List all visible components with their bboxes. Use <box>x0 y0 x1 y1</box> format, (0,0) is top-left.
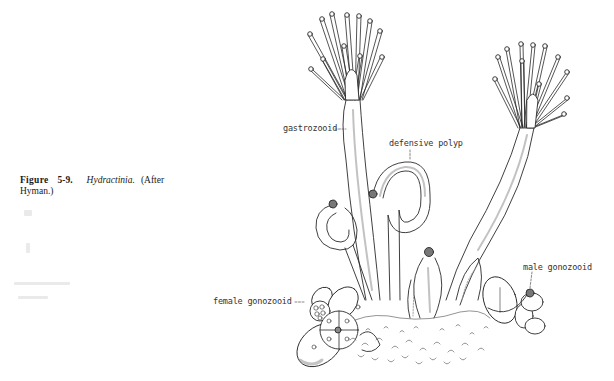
label-male-gonozooid: male gonozooid <box>523 262 592 272</box>
small-gastrozooid <box>408 248 442 319</box>
label-gastrozooid: gastrozooid <box>283 123 337 133</box>
female-gonozooid-cluster <box>289 281 380 376</box>
stolon-base <box>350 311 490 364</box>
label-female-gonozooid: female gonozooid <box>213 296 292 306</box>
defensive-polyp-left <box>316 200 372 300</box>
male-gonozooid-cluster <box>477 272 545 334</box>
label-defensive-polyp: defensive polyp <box>389 138 463 148</box>
hydractinia-illustration <box>0 0 614 381</box>
